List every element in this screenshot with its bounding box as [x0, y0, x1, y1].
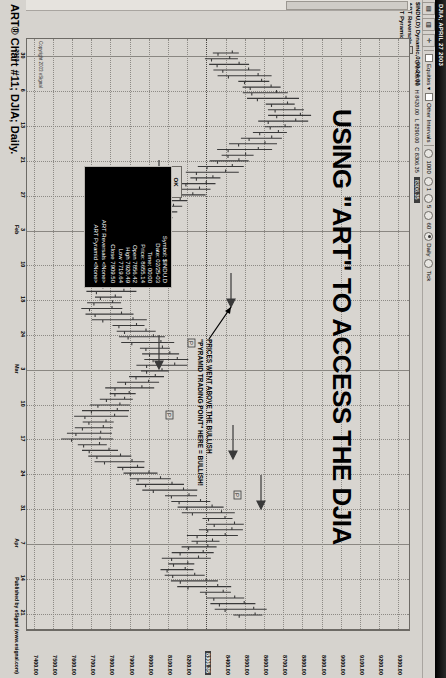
vertical-scrollbar[interactable] [26, 0, 410, 11]
quote-low: L 8290.00 [414, 119, 420, 143]
date-tick-label: 31 [20, 505, 26, 511]
interval-daily[interactable]: Daily [425, 232, 434, 256]
radio-icon-60[interactable] [425, 211, 434, 220]
price-tick-label: 7800.00 [109, 655, 115, 675]
esignal-chart-window: DJIA; APRIL 27 2003 ▤ ▥ ✛ Equities ▾ Oth… [0, 0, 446, 678]
price-tick-label: 7700.00 [90, 655, 96, 675]
chart-plot-area[interactable]: PPPPP USING "ART" TO ACCESS THE DJIA PRI… [26, 38, 410, 630]
price-tick-label: 8500.00 [244, 655, 250, 675]
date-tick-sublabel: Mar [14, 364, 20, 374]
price-tick-label: 7900.00 [129, 655, 135, 675]
other-intervals-checkbox[interactable] [425, 93, 433, 101]
price-tick-label: 8800.00 [301, 655, 307, 675]
price-tick-label: 8900.00 [321, 655, 327, 675]
date-tick-label: 21 [20, 610, 26, 616]
interval-1[interactable]: 1 [425, 177, 434, 191]
price-tick-label: 8000.00 [148, 655, 154, 675]
date-tick-label: 18 [20, 296, 26, 302]
dialog-row-date: Date: 02/25-03 [153, 171, 160, 283]
price-tick-label: 7500.00 [52, 655, 58, 675]
date-tick-label: 24 [20, 331, 26, 337]
date-tick-label: 3 [20, 367, 26, 370]
chart-caption: ART® Chart #11; DJIA; Daily. [9, 4, 21, 154]
pyramid-trading-point-arrow [257, 475, 265, 509]
dialog-row-art-pyramid: ART Pyramid <None> [92, 171, 99, 283]
svg-text:P: P [166, 413, 172, 417]
date-tick-label: 10 [20, 261, 26, 267]
price-tick-label: 8306.35 [205, 651, 211, 675]
svg-text:P: P [188, 341, 194, 345]
dialog-row-time: Time: 00:00 [146, 171, 153, 283]
screenshot-root: DJIA; APRIL 27 2003 ▤ ▥ ✛ Equities ▾ Oth… [0, 0, 446, 678]
quote-strip: O 8400.00 H 8420.00 L 8290.00 C 8306.35 … [413, 60, 421, 203]
annotation-line-1: PRICES WENT ABOVE THE BULLISH [205, 339, 213, 454]
copyright-note: Copyright 2003 eSignal [38, 41, 43, 88]
pyramid-trading-point-arrow [229, 425, 237, 459]
quote-dialog: Symbol: $INDU.D Date: 02/25-03 Time: 00:… [84, 166, 172, 288]
price-tick-label: 8700.00 [282, 655, 288, 675]
radio-icon-daily[interactable] [425, 232, 434, 241]
radio-icon-1[interactable] [425, 177, 434, 186]
grid-icon[interactable]: ▤ [423, 2, 436, 15]
equities-checkbox[interactable] [425, 54, 433, 62]
scrollbar-thumb[interactable] [286, 1, 408, 10]
dialog-row-close: Close 7909.50 [109, 171, 116, 283]
date-tick-label: 24 [20, 470, 26, 476]
price-tick-label: 9300.00 [397, 655, 403, 675]
dialog-row-art-reversals: ART Reversals <None> [99, 171, 106, 283]
svg-text:P: P [234, 493, 240, 497]
date-tick-label: 3 [20, 228, 26, 231]
annotation-line-2: "PYRAMID TRADING POINT" HERE = BULLISH! [196, 339, 204, 486]
dialog-row-price: Price: 8655.14 [138, 171, 145, 283]
date-tick-sublabel: Apr [14, 538, 20, 547]
window-titlebar: DJIA; APRIL 27 2003 [435, 0, 446, 678]
interval-1000[interactable]: 1000 [425, 149, 434, 173]
plus-icon[interactable]: ✛ [423, 34, 436, 47]
interval-60[interactable]: 60 [425, 211, 434, 229]
dialog-row-symbol: Symbol: $INDU.D [161, 171, 168, 283]
price-tick-label: 7400.00 [33, 655, 39, 675]
interval-5[interactable]: 5 [425, 194, 434, 208]
quote-high: H 8420.00 [414, 90, 420, 115]
page-title: USING "ART" TO ACCESS THE DJIA [326, 109, 357, 545]
dialog-row-open: Open 7856.42 [131, 171, 138, 283]
layout-icon[interactable]: ▥ [423, 18, 436, 31]
price-tick-label: 8600.00 [263, 655, 269, 675]
date-tick-label: 21 [20, 157, 26, 163]
toolbar[interactable]: ▤ ▥ ✛ Equities ▾ Other Intervals 1000 1 … [422, 0, 435, 678]
date-tick-label: 10 [20, 401, 26, 407]
toolbar-divider [424, 50, 434, 51]
price-tick-label: 9100.00 [359, 655, 365, 675]
dialog-row-low: Low 7719.64 [116, 171, 123, 283]
published-by: Published by eSignal (www.esignal.com) [14, 577, 20, 674]
price-tick-label: 7600.00 [71, 655, 77, 675]
quote-open: O 8400.00 [414, 60, 420, 86]
date-tick-label: 14 [20, 575, 26, 581]
quote-close: C 8306.35 [414, 147, 420, 172]
date-tick-label: 7 [20, 541, 26, 544]
equities-menu[interactable]: Equities ▾ [425, 54, 433, 90]
radio-icon-1000[interactable] [425, 149, 434, 158]
pyramid-trading-point-arrow [227, 273, 235, 307]
price-tick-label: 9200.00 [378, 655, 384, 675]
price-tick-label: 9000.00 [340, 655, 346, 675]
price-axis[interactable]: 9300.009200.009100.009000.008900.008800.… [26, 630, 410, 677]
price-tick-label: 8200.00 [186, 655, 192, 675]
radio-icon-5[interactable] [425, 194, 434, 203]
price-tick-label: 8100.00 [167, 655, 173, 675]
other-intervals-menu[interactable]: Other Intervals [425, 93, 433, 142]
dialog-row-high: High 7920.49 [124, 171, 131, 283]
pyramid-trading-point-arrow [155, 335, 163, 369]
date-tick-label: 17 [20, 435, 26, 441]
radio-icon-tick[interactable] [425, 259, 434, 268]
date-tick-label: 27 [20, 192, 26, 198]
quote-last: 8306.35 [414, 177, 420, 203]
interval-tick[interactable]: Tick [425, 259, 434, 281]
toolbar-divider-2 [424, 145, 434, 146]
price-tick-label: 8400.00 [225, 655, 231, 675]
date-tick-sublabel: Feb [14, 225, 20, 235]
